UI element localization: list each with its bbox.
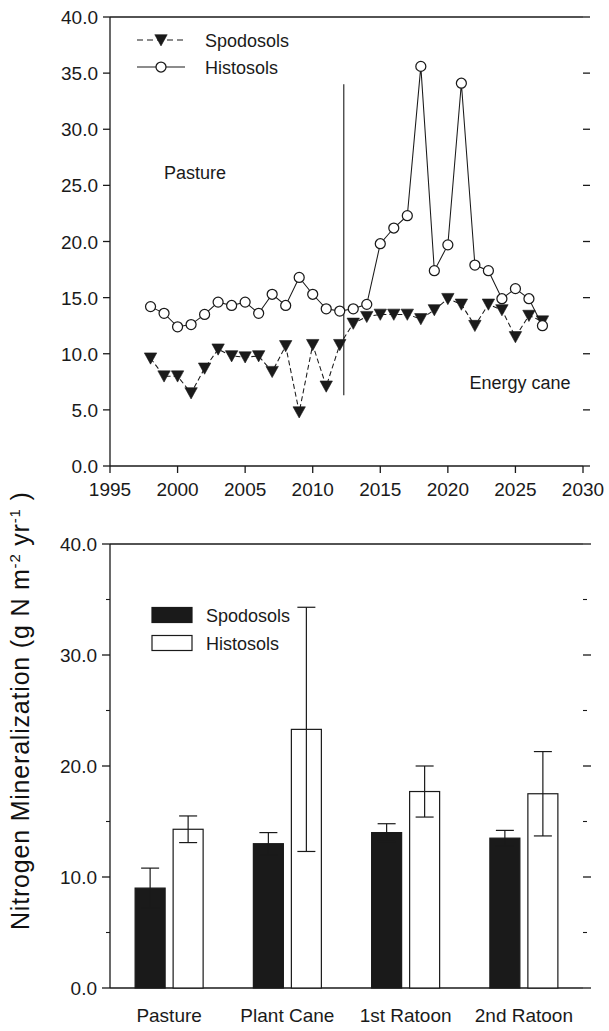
data-point-marker <box>320 381 332 392</box>
y-tick-label: 40.0 <box>60 534 97 555</box>
figure-panel: Nitrogen Mineralization (g N m-2 yr-1 ) … <box>0 0 609 1031</box>
data-point-marker <box>415 314 427 325</box>
x-tick-label: 2015 <box>359 479 401 500</box>
legend: SpodosolsHistosols <box>137 31 289 78</box>
category-label: 1st Ratoon <box>360 1005 452 1026</box>
data-point-marker <box>469 320 481 331</box>
data-point-marker <box>173 322 183 332</box>
category-label: Plant Cane <box>240 1005 334 1026</box>
bar-group <box>528 752 558 988</box>
timeseries-chart: 0.05.010.015.020.025.030.035.040.0199520… <box>61 7 604 500</box>
data-point-marker <box>156 62 166 72</box>
data-point-marker <box>279 341 291 352</box>
x-tick-label: 2025 <box>494 479 536 500</box>
data-point-marker <box>186 320 196 330</box>
y-axis-title-part1: Nitrogen Mineralization (g N m <box>6 568 34 930</box>
data-point-marker <box>321 304 331 314</box>
data-point-marker <box>389 223 399 233</box>
data-point-marker <box>281 300 291 310</box>
data-point-marker <box>240 297 250 307</box>
x-tick-label: 2030 <box>562 479 604 500</box>
y-axis-title: Nitrogen Mineralization (g N m-2 yr-1 ) <box>6 491 35 930</box>
charts-svg: 0.05.010.015.020.025.030.035.040.0199520… <box>0 0 609 1031</box>
data-point-marker <box>171 371 183 382</box>
data-point-marker <box>144 353 156 364</box>
bar-spodosols <box>490 838 520 988</box>
data-point-marker <box>307 339 319 350</box>
bar-group <box>253 833 283 988</box>
y-tick-label: 20.0 <box>60 756 97 777</box>
bar-group <box>291 607 321 988</box>
data-point-marker <box>482 299 494 310</box>
data-point-marker <box>293 407 305 418</box>
bar-group <box>410 766 440 988</box>
bar-spodosols <box>253 844 283 988</box>
bar-chart: 0.010.020.030.040.0PasturePlant Cane1st … <box>60 534 591 1026</box>
data-point-marker <box>443 240 453 250</box>
data-point-marker <box>509 332 521 343</box>
bar-group <box>372 824 402 988</box>
data-point-marker <box>429 266 439 276</box>
data-point-marker <box>470 260 480 270</box>
category-label: Pasture <box>136 1005 201 1026</box>
data-point-marker <box>308 289 318 299</box>
y-axis-title-container: Nitrogen Mineralization (g N m-2 yr-1 ) <box>0 0 40 1031</box>
data-point-marker <box>185 388 197 399</box>
y-tick-label: 15.0 <box>61 288 98 309</box>
data-point-marker <box>362 299 372 309</box>
y-axis-title-sup-yr1: -1 <box>6 508 23 523</box>
data-point-marker <box>455 299 467 310</box>
data-point-marker <box>348 304 358 314</box>
y-tick-label: 20.0 <box>61 232 98 253</box>
y-tick-label: 0.0 <box>72 456 98 477</box>
data-point-marker <box>267 289 277 299</box>
data-point-marker <box>496 305 508 316</box>
series-histosols <box>146 61 548 331</box>
y-tick-label: 25.0 <box>61 175 98 196</box>
data-point-marker <box>537 321 547 331</box>
data-point-marker <box>402 211 412 221</box>
data-point-marker <box>497 294 507 304</box>
x-tick-label: 2000 <box>156 479 198 500</box>
data-point-marker <box>227 300 237 310</box>
legend-label-spodosols: Spodosols <box>205 31 289 51</box>
data-point-marker <box>212 344 224 355</box>
x-tick-label: 2005 <box>224 479 266 500</box>
y-tick-label: 30.0 <box>60 645 97 666</box>
x-tick-label: 1995 <box>89 479 131 500</box>
y-axis-title-part3: ) <box>6 491 34 508</box>
bar-histosols <box>173 829 203 988</box>
y-tick-label: 30.0 <box>61 119 98 140</box>
bar-group <box>135 868 165 988</box>
legend-label-spodosols: Spodosols <box>206 606 290 626</box>
y-tick-label: 10.0 <box>61 344 98 365</box>
data-point-marker <box>254 308 264 318</box>
legend-swatch-spodosols <box>152 608 192 623</box>
series-line <box>151 66 543 326</box>
data-point-marker <box>523 310 535 321</box>
data-point-marker <box>335 306 345 316</box>
data-point-marker <box>239 352 251 363</box>
data-point-marker <box>159 308 169 318</box>
data-point-marker <box>200 309 210 319</box>
y-tick-label: 10.0 <box>60 867 97 888</box>
y-tick-label: 0.0 <box>71 978 97 999</box>
legend-swatch-histosols <box>152 636 192 651</box>
legend-label-histosols: Histosols <box>206 634 279 654</box>
bar-group <box>173 816 203 988</box>
bar-group <box>490 830 520 988</box>
legend-label-histosols: Histosols <box>205 58 278 78</box>
x-tick-label: 2020 <box>427 479 469 500</box>
data-point-marker <box>361 311 373 322</box>
data-point-marker <box>146 302 156 312</box>
y-tick-label: 5.0 <box>72 400 98 421</box>
data-point-marker <box>213 297 223 307</box>
category-label: 2nd Ratoon <box>475 1005 573 1026</box>
data-point-marker <box>198 363 210 374</box>
bar-spodosols <box>372 833 402 988</box>
data-point-marker <box>456 78 466 88</box>
x-tick-label: 2010 <box>292 479 334 500</box>
y-tick-label: 40.0 <box>61 7 98 28</box>
data-point-marker <box>347 318 359 329</box>
data-point-marker <box>510 284 520 294</box>
